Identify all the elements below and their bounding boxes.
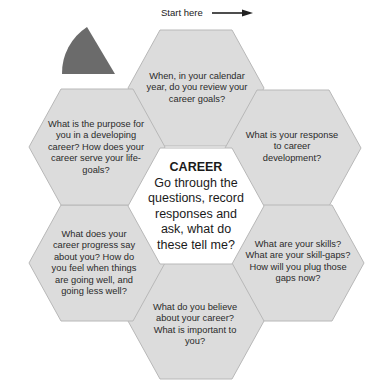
- question-right-lower: What are your skills? What are your skil…: [235, 239, 361, 285]
- question-line: you feel when things: [34, 263, 154, 274]
- question-line: career progress say: [34, 240, 154, 251]
- question-line: are going well, and: [34, 274, 154, 285]
- question-bottom: What do you believe about your career? W…: [135, 302, 255, 348]
- question-left-upper: What is the purpose for you in a develop…: [36, 119, 156, 176]
- question-line: you?: [135, 336, 255, 347]
- center-line: Go through the: [137, 176, 255, 192]
- question-top: When, in your calendar year, do you revi…: [137, 71, 257, 105]
- question-line: development?: [232, 153, 352, 164]
- question-left-lower: What does your career progress say about…: [34, 229, 154, 297]
- question-line: What are your skill-gaps?: [235, 251, 361, 262]
- question-line: How will you plug those: [235, 262, 361, 273]
- center-line: questions, record: [137, 191, 255, 207]
- question-line: goals?: [36, 165, 156, 176]
- question-line: When, in your calendar: [137, 71, 257, 82]
- question-line: you in a developing: [36, 131, 156, 142]
- question-line: What do you believe: [135, 302, 255, 313]
- question-line: What is the purpose for: [36, 119, 156, 130]
- question-line: What is your response: [232, 130, 352, 141]
- question-line: about you? How do: [34, 252, 154, 263]
- question-right-upper: What is your response to career developm…: [232, 130, 352, 164]
- question-line: What does your: [34, 229, 154, 240]
- question-line: about your career?: [135, 314, 255, 325]
- question-line: going less well?: [34, 286, 154, 297]
- question-line: career serve your life-: [36, 154, 156, 165]
- center-line: ask, what do: [137, 223, 255, 239]
- question-line: What are your skills?: [235, 239, 361, 250]
- question-line: year, do you review your: [137, 82, 257, 93]
- question-line: to career: [232, 141, 352, 152]
- career-hexagon-diagram: Start here CAREER Go through the questio…: [0, 0, 387, 388]
- question-line: What is important to: [135, 325, 255, 336]
- question-line: career goals?: [137, 94, 257, 105]
- quarter-circle-marker-icon: [62, 27, 115, 74]
- question-line: career? How does your: [36, 142, 156, 153]
- center-line: responses and: [137, 207, 255, 223]
- question-line: gaps now?: [235, 273, 361, 284]
- right-arrow-icon: [212, 9, 254, 17]
- start-here-label: Start here: [161, 7, 203, 18]
